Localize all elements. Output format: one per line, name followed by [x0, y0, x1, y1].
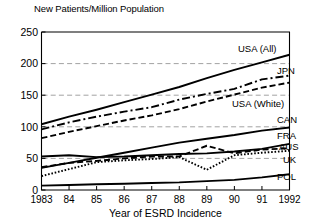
x-tick-label: 87 — [146, 194, 158, 205]
x-axis-title: Year of ESRD Incidence — [109, 207, 222, 219]
x-tick-labels: 198384858687888990911992 — [30, 194, 301, 205]
y-tick-label: 250 — [20, 26, 38, 38]
x-tick-label: 1983 — [30, 194, 53, 205]
chart-figure: New Patients/Million Population 05010015… — [0, 0, 317, 221]
series-label-usa-white: USA (White) — [232, 98, 284, 109]
series-label-uk: UK — [283, 154, 297, 165]
series-label-pol: POL — [277, 171, 296, 182]
x-tick-label: 89 — [201, 194, 213, 205]
x-tick-label: 90 — [229, 194, 241, 205]
y-tick-label: 200 — [20, 57, 38, 69]
series-label-usa-all: USA (All) — [238, 43, 277, 54]
series-label-jpn: JPN — [277, 65, 295, 76]
chart-svg: 050100150200250 198384858687888990911992… — [0, 0, 317, 221]
x-tick-label: 91 — [256, 194, 268, 205]
x-axis-title-text: Year of ESRD Incidence — [109, 207, 222, 219]
y-tick-labels: 050100150200250 — [20, 26, 38, 196]
plot-area: 050100150200250 198384858687888990911992… — [0, 0, 317, 221]
series-label-aus: AUS — [279, 141, 299, 152]
y-tick-label: 50 — [26, 152, 38, 164]
x-tick-label: 84 — [63, 194, 75, 205]
series-label-fra: FRA — [277, 130, 297, 141]
data-series — [42, 55, 290, 186]
x-tick-label: 85 — [91, 194, 103, 205]
x-tick-label: 88 — [174, 194, 186, 205]
series-line-pol — [42, 174, 290, 185]
y-tick-label: 100 — [20, 121, 38, 133]
series-label-can: CAN — [277, 114, 297, 125]
x-tick-label: 86 — [119, 194, 131, 205]
y-tick-label: 150 — [20, 89, 38, 101]
x-tick-label: 1992 — [278, 194, 301, 205]
